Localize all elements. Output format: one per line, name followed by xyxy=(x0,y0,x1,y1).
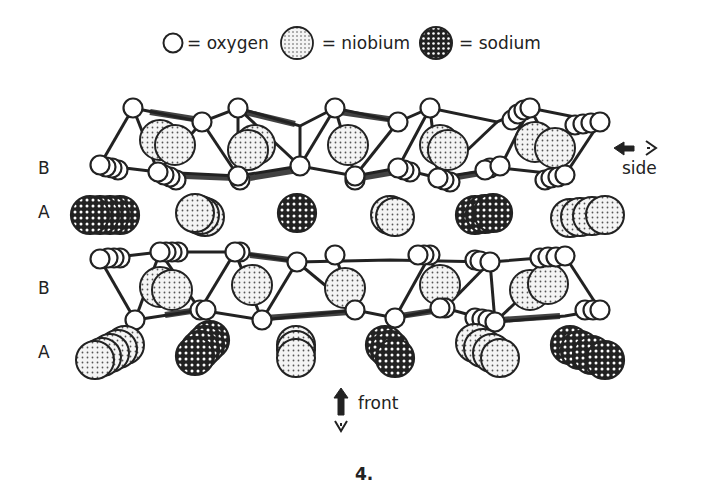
dotted-circle-icon xyxy=(275,26,319,60)
crystal-structure-diagram xyxy=(0,0,703,504)
crosshatched-circle-icon xyxy=(416,26,456,60)
up-arrow-eye-icon xyxy=(334,388,348,431)
layer-label-b-lower: B xyxy=(38,278,50,298)
layer-label-a-upper: A xyxy=(38,202,50,222)
layer-a-upper xyxy=(71,194,624,237)
figure-number: 4. xyxy=(355,464,373,484)
legend-item-niobium: = niobium xyxy=(275,26,410,60)
legend-item-oxygen: = oxygen xyxy=(162,32,269,54)
layer-a-lower xyxy=(76,321,624,379)
layer-label-b-top: B xyxy=(38,158,50,178)
side-view-label: side xyxy=(622,158,657,178)
legend-label-niobium: = niobium xyxy=(322,33,410,53)
legend-label-oxygen: = oxygen xyxy=(187,33,269,53)
front-view-label: front xyxy=(358,393,398,413)
legend-item-sodium: = sodium xyxy=(416,26,541,60)
layer-b-top xyxy=(91,99,610,192)
legend: = oxygen = niobium = sodium xyxy=(162,28,547,58)
left-arrow-eye-icon xyxy=(614,141,656,155)
layer-label-a-lower: A xyxy=(38,342,50,362)
open-circle-icon xyxy=(162,32,184,54)
layer-b-lower xyxy=(91,243,610,332)
legend-label-sodium: = sodium xyxy=(459,33,541,53)
